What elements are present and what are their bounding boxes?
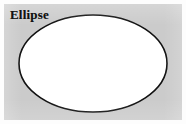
ellipse-shape (19, 15, 167, 112)
shape-label: Ellipse (10, 7, 49, 22)
figure-canvas: Ellipse (0, 0, 186, 124)
figure-background-plate: Ellipse (4, 4, 182, 120)
